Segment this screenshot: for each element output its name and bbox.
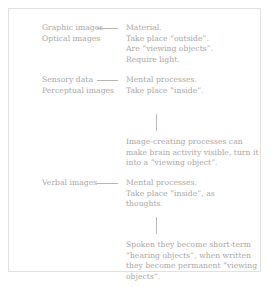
horizontal-connector-icon-graphic [97,28,118,29]
note-image-creating-processes: Image-creating processes can make brain … [126,137,266,169]
row-body-sensory-data: Mental processes. Take place “inside”. [126,75,262,96]
diagram-rows: Graphic images Optical images Material. … [9,9,260,271]
row-body-verbal-images: Mental processes. Take place “inside”, a… [126,178,262,210]
diagram-frame: Graphic images Optical images Material. … [8,8,261,272]
horizontal-connector-icon-sensory [97,80,118,81]
note-spoken-written-objects: Spoken they become short-term “hearing o… [126,240,266,282]
vertical-connector-icon-1 [156,114,157,131]
row-body-graphic-images: Material. Take place “outside”. Are “vie… [126,23,262,65]
vertical-connector-icon-2 [156,217,157,234]
horizontal-connector-icon-verbal [97,183,118,184]
row-label-sensory-data: Sensory data Perceptual images [42,75,128,96]
row-label-graphic-images: Graphic images Optical images [42,23,128,44]
